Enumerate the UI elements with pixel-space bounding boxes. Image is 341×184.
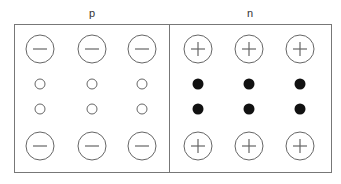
electron-icon — [295, 79, 306, 90]
plus-ion-icon — [184, 35, 212, 63]
minus-ion-icon — [128, 35, 156, 63]
plus-ion-icon — [286, 132, 314, 160]
plus-ion-icon — [184, 132, 212, 160]
minus-ion-icon — [26, 132, 54, 160]
minus-ion-icon — [78, 35, 106, 63]
electron-icon — [244, 104, 255, 115]
hole-icon — [35, 79, 45, 89]
plus-ion-icon — [235, 132, 263, 160]
plus-ion-icon — [235, 35, 263, 63]
hole-icon — [137, 104, 147, 114]
hole-icon — [87, 79, 97, 89]
hole-icon — [87, 104, 97, 114]
pn-junction-diagram: p n — [0, 0, 341, 184]
electron-icon — [193, 104, 204, 115]
hole-icon — [35, 104, 45, 114]
minus-ion-icon — [78, 132, 106, 160]
junction-box — [15, 25, 332, 173]
n-region-label: n — [247, 7, 253, 19]
electron-icon — [244, 79, 255, 90]
minus-ion-icon — [128, 132, 156, 160]
n-region — [184, 35, 314, 160]
plus-ion-icon — [286, 35, 314, 63]
electron-icon — [193, 79, 204, 90]
electron-icon — [295, 104, 306, 115]
p-region-label: p — [89, 7, 95, 19]
p-region — [26, 35, 156, 160]
minus-ion-icon — [26, 35, 54, 63]
hole-icon — [137, 79, 147, 89]
